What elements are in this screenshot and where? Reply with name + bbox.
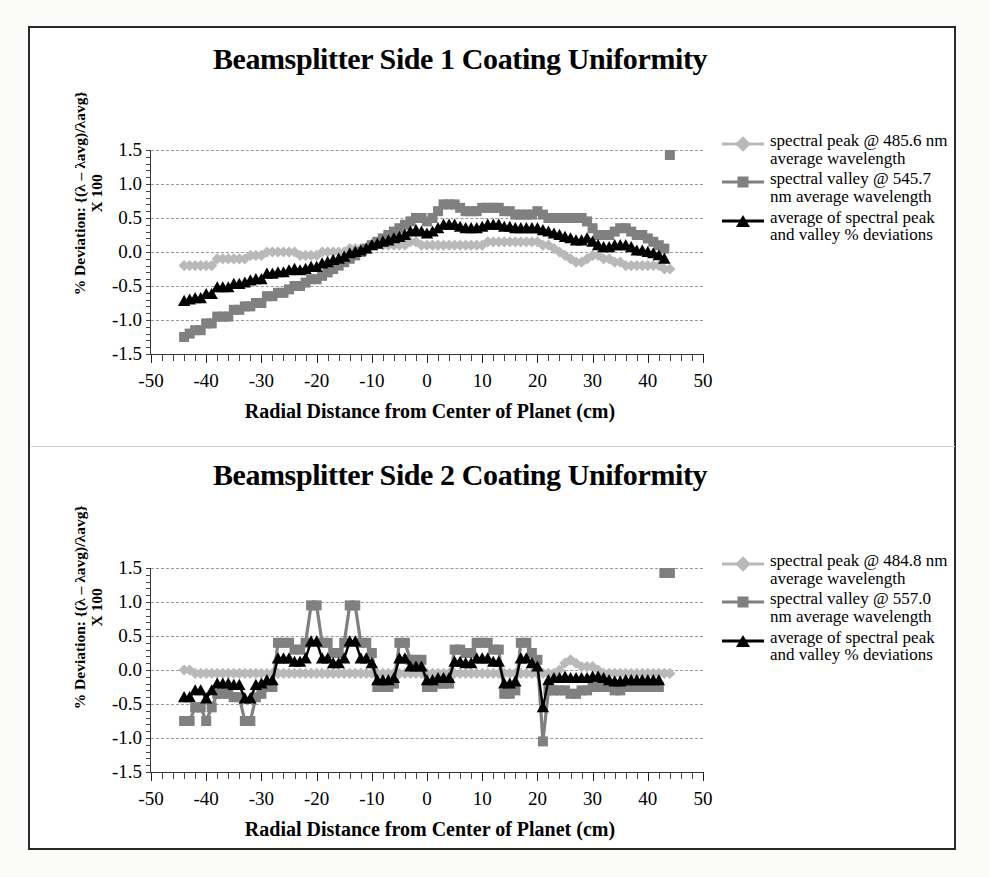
y-tick-label: 1.5 xyxy=(118,139,142,161)
data-point-marker xyxy=(665,150,675,160)
chart-title-1: Beamsplitter Side 1 Coating Uniformity xyxy=(30,42,890,76)
x-tick-mark xyxy=(427,772,428,781)
x-tick-mark xyxy=(482,354,483,363)
x-tick-mark xyxy=(250,354,251,361)
data-point-marker xyxy=(185,716,195,726)
y-tick-label: 0.5 xyxy=(118,207,142,229)
y-axis-title-2-line1: % Deviation: {(λ – λavg)/λavg} xyxy=(71,505,88,709)
x-tick-mark xyxy=(471,772,472,779)
x-tick-label: 40 xyxy=(638,788,657,810)
x-tick-mark xyxy=(659,772,660,779)
series-layer xyxy=(151,150,703,354)
x-tick-mark xyxy=(272,354,273,361)
x-tick-mark xyxy=(250,772,251,779)
x-tick-mark xyxy=(328,354,329,361)
chart-title-2: Beamsplitter Side 2 Coating Uniformity xyxy=(30,458,890,492)
x-tick-mark xyxy=(593,354,594,363)
x-tick-mark xyxy=(438,772,439,779)
legend-item[interactable]: average of spectral peak and valley % de… xyxy=(720,209,956,244)
legend-1: spectral peak @ 485.6 nm average wavelen… xyxy=(720,132,956,247)
legend-item[interactable]: spectral peak @ 485.6 nm average wavelen… xyxy=(720,132,956,167)
legend-label: spectral peak @ 485.6 nm average wavelen… xyxy=(770,132,956,167)
legend-item[interactable]: spectral valley @ 557.0 nm average wavel… xyxy=(720,590,956,625)
legend-label: average of spectral peak and valley % de… xyxy=(770,209,956,244)
legend-label: spectral valley @ 557.0 nm average wavel… xyxy=(770,590,956,625)
x-tick-mark xyxy=(460,354,461,361)
x-tick-mark xyxy=(173,772,174,779)
data-point-marker xyxy=(350,600,360,610)
x-tick-mark xyxy=(295,772,296,779)
x-tick-mark xyxy=(626,354,627,361)
x-tick-mark xyxy=(394,354,395,361)
x-tick-mark xyxy=(427,354,428,363)
x-tick-mark xyxy=(151,354,152,363)
legend-item[interactable]: spectral valley @ 545.7 nm average wavel… xyxy=(720,170,956,205)
x-tick-mark xyxy=(703,354,704,363)
x-tick-mark xyxy=(394,772,395,779)
x-tick-label: 20 xyxy=(528,788,547,810)
x-tick-mark xyxy=(537,772,538,781)
x-tick-mark xyxy=(162,354,163,361)
x-tick-mark xyxy=(604,772,605,779)
legend-marker-diamond-icon xyxy=(735,136,751,152)
data-point-marker xyxy=(201,716,211,726)
x-tick-mark xyxy=(703,772,704,781)
x-tick-mark xyxy=(339,772,340,779)
legend-swatch-diamond xyxy=(720,134,766,154)
x-tick-mark xyxy=(526,772,527,779)
data-point-marker xyxy=(538,736,548,746)
x-tick-label: -30 xyxy=(249,788,274,810)
x-tick-mark xyxy=(383,772,384,779)
y-tick-label: 0.0 xyxy=(118,659,142,681)
data-point-marker xyxy=(361,638,371,648)
x-tick-mark xyxy=(372,354,373,363)
legend-label: spectral valley @ 545.7 nm average wavel… xyxy=(770,170,956,205)
x-tick-mark xyxy=(173,354,174,361)
x-tick-label: -10 xyxy=(359,370,384,392)
x-tick-mark xyxy=(537,354,538,363)
data-point-marker xyxy=(245,716,255,726)
x-tick-mark xyxy=(681,772,682,779)
x-tick-label: 10 xyxy=(473,370,492,392)
y-tick-label: 1.0 xyxy=(118,591,142,613)
x-tick-mark xyxy=(206,772,207,781)
x-tick-label: 50 xyxy=(694,370,713,392)
x-tick-label: -40 xyxy=(194,370,219,392)
y-tick-label: 1.0 xyxy=(118,173,142,195)
legend-marker-square-icon xyxy=(738,597,749,608)
legend-item[interactable]: average of spectral peak and valley % de… xyxy=(720,629,956,664)
x-tick-mark xyxy=(670,772,671,779)
data-point-marker xyxy=(323,638,333,648)
x-tick-mark xyxy=(571,772,572,779)
x-tick-mark xyxy=(681,354,682,361)
x-tick-label: 40 xyxy=(638,370,657,392)
chart-panel-side-2: Beamsplitter Side 2 Coating Uniformity %… xyxy=(30,440,958,851)
x-tick-label: -30 xyxy=(249,370,274,392)
x-tick-mark xyxy=(261,772,262,781)
x-tick-mark xyxy=(217,354,218,361)
x-tick-mark xyxy=(283,772,284,779)
x-tick-label: -50 xyxy=(138,370,163,392)
x-tick-mark xyxy=(184,772,185,779)
x-tick-label: 30 xyxy=(583,370,602,392)
y-tick-label: -0.5 xyxy=(112,693,142,715)
x-tick-mark xyxy=(361,354,362,361)
y-tick-label: -1.0 xyxy=(112,309,142,331)
legend-marker-diamond-icon xyxy=(735,556,751,572)
x-tick-mark xyxy=(295,354,296,361)
x-tick-mark xyxy=(228,354,229,361)
x-tick-mark xyxy=(449,354,450,361)
x-tick-mark xyxy=(493,772,494,779)
y-tick-label: 0.5 xyxy=(118,625,142,647)
x-tick-mark xyxy=(195,354,196,361)
x-tick-label: -50 xyxy=(138,788,163,810)
data-point-marker xyxy=(665,568,675,578)
scanned-page: Beamsplitter Side 1 Coating Uniformity %… xyxy=(0,0,989,877)
x-tick-mark xyxy=(416,772,417,779)
legend-label: spectral peak @ 484.8 nm average wavelen… xyxy=(770,552,956,587)
x-tick-mark xyxy=(482,772,483,781)
legend-marker-triangle-icon xyxy=(736,635,750,647)
x-tick-mark xyxy=(659,354,660,361)
x-tick-mark xyxy=(339,354,340,361)
legend-item[interactable]: spectral peak @ 484.8 nm average wavelen… xyxy=(720,552,956,587)
